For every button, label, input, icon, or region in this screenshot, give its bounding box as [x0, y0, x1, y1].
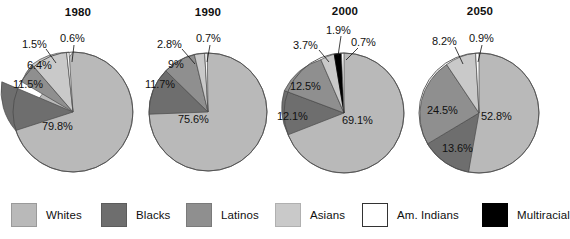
slice-label-asians-1980: 1.5%: [22, 38, 47, 50]
slice-label-whites-1980: 79.8%: [42, 120, 73, 132]
legend-swatch-blacks-icon: [101, 203, 127, 227]
legend-item-am-indians: Am. Indians: [362, 202, 459, 228]
legend-item-blacks: Blacks: [101, 202, 170, 228]
slice-label-am-indians-2050: 0.9%: [469, 32, 494, 44]
legend-swatch-whites-icon: [11, 203, 37, 227]
legend-label-blacks: Blacks: [136, 209, 170, 221]
slice-label-blacks-2000: 12.1%: [277, 110, 308, 122]
slice-label-blacks-2050: 13.6%: [442, 142, 473, 154]
slice-label-asians-2050: 8.2%: [432, 35, 457, 47]
slice-label-am-indians-1990: 0.7%: [196, 32, 221, 44]
slice-label-latinos-2000: 12.5%: [290, 80, 321, 92]
slice-label-asians-2000: 3.7%: [293, 39, 318, 51]
chart-legend: Whites Blacks Latinos Asians Am. Indians…: [0, 198, 555, 232]
slice-label-blacks-1980: 11.5%: [13, 78, 43, 90]
legend-label-am-indians: Am. Indians: [397, 209, 459, 221]
legend-swatch-am-indians-icon: [362, 203, 388, 227]
pie-svg-1990: [133, 0, 285, 190]
pie-chart-2000: 69.1% 12.1% 12.5% 3.7% 1.9% 0.7%: [268, 0, 423, 190]
pie-chart-1980: 79.8% 11.5% 6.4% 1.5% 0.6%: [0, 0, 150, 190]
legend-label-multiracial: Multiracial: [517, 209, 570, 221]
slice-label-am-indians-2000: 0.7%: [351, 36, 376, 48]
legend-swatch-asians-icon: [275, 203, 301, 227]
legend-swatch-multiracial-icon: [482, 203, 508, 227]
legend-item-latinos: Latinos: [186, 202, 259, 228]
slice-label-whites-2050: 52.8%: [481, 110, 512, 122]
pie-chart-1990: 75.6% 11.7% 9% 2.8% 0.7%: [133, 0, 285, 190]
legend-item-whites: Whites: [11, 202, 82, 228]
slice-label-latinos-1980: 6.4%: [27, 59, 52, 71]
slice-label-whites-2000: 69.1%: [342, 114, 373, 126]
slice-label-multiracial-2000: 1.9%: [326, 24, 351, 36]
slice-label-am-indians-1980: 0.6%: [60, 32, 85, 44]
slice-label-asians-1990: 2.8%: [157, 38, 182, 50]
legend-label-asians: Asians: [310, 209, 345, 221]
legend-item-asians: Asians: [275, 202, 345, 228]
slice-label-latinos-2050: 24.5%: [427, 104, 458, 116]
pie-svg-1980: [0, 0, 150, 190]
slice-label-blacks-1990: 11.7%: [145, 78, 175, 90]
pie-chart-2050: 52.8% 13.6% 24.5% 8.2% 0.9%: [403, 0, 555, 190]
legend-label-whites: Whites: [46, 209, 82, 221]
legend-item-multiracial: Multiracial: [482, 202, 570, 228]
legend-swatch-latinos-icon: [186, 203, 212, 227]
pie-svg-2050: [403, 0, 555, 190]
slice-label-whites-1990: 75.6%: [178, 113, 209, 125]
legend-label-latinos: Latinos: [221, 209, 259, 221]
slice-label-latinos-1990: 9%: [168, 58, 184, 70]
